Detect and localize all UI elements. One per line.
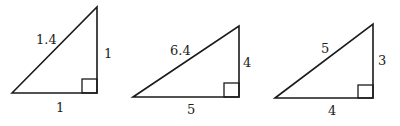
right-angle-marker xyxy=(224,83,239,97)
right-angle-marker xyxy=(82,79,97,93)
triangle-3: 5 3 4 xyxy=(275,24,386,118)
triangle-1-vertical-label: 1 xyxy=(104,46,112,61)
triangle-2-outline xyxy=(133,26,239,97)
triangle-1-outline xyxy=(12,7,97,93)
right-angle-marker xyxy=(358,85,373,98)
triangle-2-horizontal-label: 5 xyxy=(187,102,195,117)
triangle-2-hypotenuse-label: 6.4 xyxy=(170,43,191,58)
triangle-1: 1.4 1 1 xyxy=(12,7,112,115)
triangle-3-horizontal-label: 4 xyxy=(328,103,336,118)
triangle-1-horizontal-label: 1 xyxy=(56,100,64,115)
triangle-3-hypotenuse-label: 5 xyxy=(321,41,329,56)
triangle-2: 6.4 4 5 xyxy=(133,26,251,117)
triangle-2-vertical-label: 4 xyxy=(243,55,251,70)
triangles-figure: 1.4 1 1 6.4 4 5 5 3 4 xyxy=(0,0,400,126)
triangle-3-vertical-label: 3 xyxy=(378,53,386,68)
triangle-1-hypotenuse-label: 1.4 xyxy=(36,32,57,47)
